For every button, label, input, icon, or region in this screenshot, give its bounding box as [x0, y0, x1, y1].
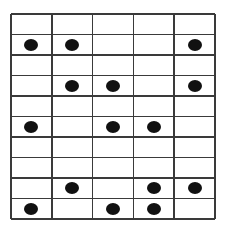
grid-row-line — [11, 177, 215, 179]
grid-dot — [147, 182, 161, 194]
grid-dot — [147, 203, 161, 215]
grid-column-line — [92, 14, 94, 219]
grid-dot — [106, 80, 120, 92]
grid-column-line — [173, 14, 175, 219]
grid-row-line — [11, 13, 215, 15]
grid-row-line — [11, 136, 215, 138]
grid-dot — [65, 80, 79, 92]
grid-row-line — [11, 157, 215, 159]
dot-grid — [11, 14, 215, 219]
grid-dot — [65, 182, 79, 194]
grid-dot — [106, 203, 120, 215]
grid-row-line — [11, 34, 215, 36]
grid-column-line — [133, 14, 135, 219]
grid-column-line — [51, 14, 53, 219]
grid-row-line — [11, 54, 215, 56]
grid-dot — [188, 80, 202, 92]
grid-dot — [24, 121, 38, 133]
grid-column-line — [10, 14, 12, 219]
grid-dot — [147, 121, 161, 133]
grid-row-line — [11, 75, 215, 77]
grid-dot — [24, 39, 38, 51]
grid-column-line — [214, 14, 216, 219]
grid-row-line — [11, 218, 215, 220]
grid-dot — [188, 182, 202, 194]
grid-dot — [106, 121, 120, 133]
grid-dot — [188, 39, 202, 51]
grid-row-line — [11, 95, 215, 97]
grid-row-line — [11, 116, 215, 118]
grid-dot — [65, 39, 79, 51]
grid-dot — [24, 203, 38, 215]
grid-row-line — [11, 198, 215, 200]
